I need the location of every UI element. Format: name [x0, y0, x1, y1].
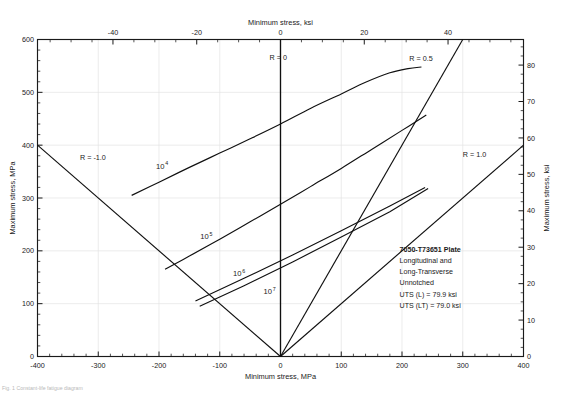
- x-tick-label-bottom: 200: [396, 361, 408, 370]
- y-tick-label-left: 200: [22, 246, 34, 255]
- y-tick-label-right: 80: [527, 61, 535, 70]
- life-curve-label-base: 10: [156, 162, 164, 171]
- x-tick-label-bottom: 400: [518, 361, 530, 370]
- x-tick-label-bottom: 300: [457, 361, 469, 370]
- life-curve-label-base: 10: [263, 287, 271, 296]
- x-tick-label-bottom: 0: [279, 361, 283, 370]
- r-ratio-label: R = 0.5: [409, 54, 432, 63]
- x-tick-label-bottom: 100: [335, 361, 347, 370]
- material-note-layer: 7050-T73651 PlateLongitudinal andLong-Tr…: [400, 246, 462, 310]
- y-tick-label-right: 40: [527, 206, 535, 215]
- x-tick-label-top: 40: [444, 28, 452, 37]
- life-curve-1e6: [195, 187, 425, 301]
- y-tick-label-right: 60: [527, 134, 535, 143]
- life-curve-label-exponent: 5: [210, 231, 213, 237]
- life-curve-label: 105: [200, 231, 212, 242]
- x-tick-label-bottom: -300: [91, 361, 105, 370]
- figure-caption: Fig. 1 Constant-life fatigue diagram: [2, 385, 83, 391]
- y-axis-title-left: Maximum stress, MPa: [8, 161, 17, 235]
- life-curve-label-base: 10: [233, 269, 241, 278]
- x-axis-title-bottom: Minimum stress, MPa: [245, 372, 317, 381]
- axis-titles-layer: Minimum stress, MPaMinimum stress, ksiMa…: [8, 18, 552, 381]
- material-note-line: Longitudinal and: [400, 257, 452, 265]
- curve-labels-layer: 104105106107: [156, 160, 276, 296]
- constant-life-fatigue-chart: -400-300-200-1000100200300400-40-2002040…: [0, 0, 563, 393]
- r-ratio-label: R = 1.0: [463, 150, 486, 159]
- material-note-line: Long-Transverse: [400, 268, 453, 276]
- r-ratio-label: R = 0: [270, 53, 287, 62]
- life-curve-label-exponent: 4: [165, 160, 168, 166]
- y-tick-label-left: 400: [22, 141, 34, 150]
- y-tick-label-left: 100: [22, 299, 34, 308]
- life-curve-label-exponent: 6: [242, 268, 245, 274]
- figure-caption-layer: Fig. 1 Constant-life fatigue diagram: [2, 385, 83, 391]
- x-tick-label-bottom: -200: [152, 361, 166, 370]
- life-curve-1e5: [165, 115, 426, 269]
- y-tick-label-left: 0: [30, 352, 34, 361]
- r-ratio-label: R = -1.0: [80, 153, 106, 162]
- x-tick-label-bottom: -100: [213, 361, 227, 370]
- x-tick-label-top: -40: [108, 28, 118, 37]
- y-tick-label-right: 20: [527, 279, 535, 288]
- x-tick-label-bottom: -400: [30, 361, 44, 370]
- y-tick-label-right: 70: [527, 97, 535, 106]
- y-axis-title-right: Maximum stress, ksi: [542, 164, 551, 231]
- y-tick-label-right: 10: [527, 316, 535, 325]
- y-tick-label-left: 600: [22, 35, 34, 44]
- x-tick-label-top: 20: [360, 28, 368, 37]
- y-tick-label-right: 30: [527, 243, 535, 252]
- life-curve-label: 107: [263, 286, 275, 297]
- life-curve-1e7: [200, 188, 428, 306]
- y-tick-label-right: 50: [527, 170, 535, 179]
- y-tick-label-left: 500: [22, 88, 34, 97]
- material-note-line: 7050-T73651 Plate: [400, 246, 461, 254]
- x-tick-label-top: 0: [279, 28, 283, 37]
- x-axis-title-top: Minimum stress, ksi: [248, 18, 313, 27]
- figure-container: -400-300-200-1000100200300400-40-2002040…: [0, 0, 563, 393]
- life-curve-label: 104: [156, 160, 168, 171]
- life-curve-label-exponent: 7: [273, 286, 276, 292]
- material-note-line: Unnotched: [400, 279, 434, 287]
- life-curve-label-base: 10: [200, 232, 208, 241]
- life-curve-1e4: [132, 67, 422, 195]
- r-ratio-labels-layer: R = -1.0R = 0R = 0.5R = 1.0: [80, 53, 486, 162]
- material-note-line: UTS (LT) = 79.0 ksi: [400, 302, 462, 310]
- life-curve-label: 106: [233, 268, 245, 279]
- y-tick-label-left: 300: [22, 194, 34, 203]
- material-note-line: UTS (L) = 79.9 ksi: [400, 291, 458, 299]
- x-tick-label-top: -20: [192, 28, 202, 37]
- y-tick-label-right: 0: [527, 352, 531, 361]
